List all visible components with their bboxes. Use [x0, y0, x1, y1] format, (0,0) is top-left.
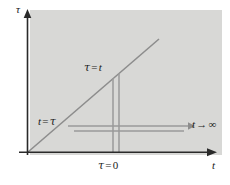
diagonal-annotation-rhs: t	[99, 61, 102, 73]
arrow-right-icon: →	[195, 118, 208, 130]
vertical-annotation-rhs: 0	[113, 159, 119, 171]
t-axis-label: t	[212, 160, 215, 171]
vertical-annotation-op: =	[104, 159, 112, 171]
infinity-symbol: ∞	[208, 118, 216, 130]
diagonal-annotation-label: τ=t	[84, 62, 102, 73]
vertical-annotation-label: τ=0	[98, 160, 118, 171]
tau-t-diagram: τ t τ=t t=τ t→∞ τ=0	[0, 0, 230, 185]
diagram-canvas	[0, 0, 230, 185]
diagonal-annotation-op: =	[90, 61, 98, 73]
horizontal-left-annotation-rhs: τ	[50, 115, 56, 128]
plot-panel	[30, 10, 222, 155]
tau-axis-label: τ	[16, 4, 20, 15]
horizontal-left-annotation-label: t=τ	[38, 116, 56, 127]
horizontal-left-annotation-op: =	[41, 115, 49, 127]
horizontal-right-annotation-label: t→∞	[192, 119, 217, 130]
